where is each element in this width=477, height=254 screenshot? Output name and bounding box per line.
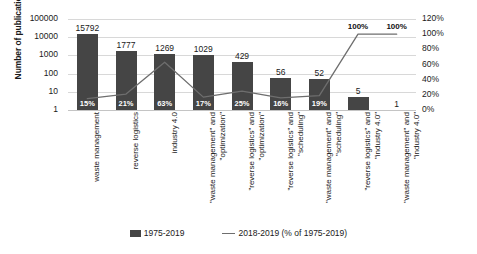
- bar-value-label: 15792: [62, 23, 112, 33]
- category-label: "waste management" and "scheduling": [324, 112, 343, 218]
- line-swatch-icon: [222, 233, 235, 234]
- legend-item-bar: 1975-2019: [130, 228, 185, 238]
- bar-swatch-icon: [130, 230, 141, 237]
- bar-value-label: 5: [333, 86, 383, 96]
- publications-bar-line-chart: Number of publications 11010010001000010…: [0, 0, 477, 254]
- y-axis-tick: 1000: [6, 50, 58, 59]
- category-label: waste management: [92, 112, 102, 218]
- bar-value-label: 429: [217, 51, 267, 61]
- y-axis-tick: 100000: [6, 14, 58, 23]
- category-label: industry 4.0: [170, 112, 180, 218]
- percent-label: 19%: [294, 99, 344, 108]
- category-label: "waste management" and "optimization": [208, 112, 227, 218]
- chart-legend: 1975-2019 2018-2019 (% of 1975-2019): [0, 228, 477, 238]
- category-label: "reverse logistics" and "scheduling": [286, 112, 305, 218]
- gridline: [68, 110, 416, 111]
- percent-label: 100%: [372, 22, 422, 31]
- secondary-y-axis-tick: 80%: [422, 44, 462, 53]
- secondary-y-axis-tick: 120%: [422, 14, 462, 23]
- bar-value-label: 1: [372, 99, 422, 109]
- plot-area: 15792177712691029429565251 15%21%63%17%2…: [68, 19, 416, 110]
- y-axis-tick: 100: [6, 69, 58, 78]
- line-series-2018-2019: [68, 19, 416, 110]
- category-label: "reverse logistics" and "optimization": [247, 112, 266, 218]
- secondary-y-axis-tick: 40%: [422, 75, 462, 84]
- legend-label-line: 2018-2019 (% of 1975-2019): [238, 228, 347, 238]
- legend-label-bar: 1975-2019: [144, 228, 185, 238]
- bar-value-label: 52: [294, 68, 344, 78]
- y-axis-tick: 10000: [6, 32, 58, 41]
- secondary-y-axis-tick: 60%: [422, 60, 462, 69]
- legend-item-line: 2018-2019 (% of 1975-2019): [222, 228, 347, 238]
- secondary-y-axis-tick: 0%: [422, 105, 462, 114]
- category-label: "reverse logistics" and "industry 4.0": [363, 112, 382, 218]
- category-label: "waste management" and "industry 4.0": [402, 112, 421, 218]
- y-axis-tick: 1: [6, 105, 58, 114]
- x-axis-category-labels: waste managementreverse logisticsindustr…: [68, 112, 416, 220]
- category-label: reverse logistics: [131, 112, 141, 218]
- secondary-y-axis-tick: 100%: [422, 29, 462, 38]
- secondary-y-axis-tick: 20%: [422, 90, 462, 99]
- y-axis-tick: 10: [6, 87, 58, 96]
